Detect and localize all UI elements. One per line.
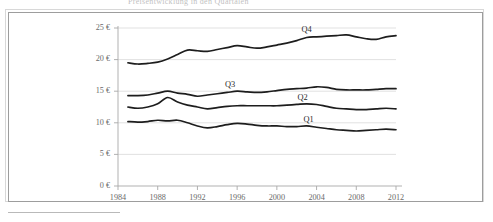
clipped-title-sliver: Preisentwicklung in den Quartalen <box>128 0 358 6</box>
x-axis-tick-label: 2008 <box>348 193 364 202</box>
series-label-q4: Q4 <box>302 25 313 34</box>
x-axis-tick-label: 2000 <box>269 193 285 202</box>
y-axis-tick-label: 10 € <box>96 118 110 127</box>
y-axis-tick-label: 25 € <box>96 23 110 32</box>
x-axis-tick-label: 1996 <box>229 193 245 202</box>
y-axis-tick-label: 20 € <box>96 54 110 63</box>
series-line-q2 <box>128 97 396 109</box>
x-axis-tick-label: 1992 <box>189 193 205 202</box>
chart-figure: Preisentwicklung in den Quartalen 0 €5 €… <box>0 0 493 222</box>
series-label-q1: Q1 <box>304 115 314 124</box>
plot-area: 0 €5 €10 €15 €20 €25 €198419881992199620… <box>8 12 483 202</box>
y-axis-tick-label: 15 € <box>96 86 110 95</box>
y-axis-tick-label: 5 € <box>100 149 110 158</box>
series-label-q3: Q3 <box>225 80 235 89</box>
y-axis-tick-label: 0 € <box>100 181 110 190</box>
series-line-q1 <box>128 120 396 131</box>
line-chart-svg: 0 €5 €10 €15 €20 €25 €198419881992199620… <box>8 12 483 202</box>
x-axis-tick-label: 2004 <box>308 193 324 202</box>
series-label-q2: Q2 <box>298 93 308 102</box>
bottom-divider-rule <box>8 212 120 213</box>
x-axis-tick-label: 1988 <box>150 193 166 202</box>
x-axis-tick-label: 2012 <box>388 193 404 202</box>
x-axis-tick-label: 1984 <box>110 193 126 202</box>
